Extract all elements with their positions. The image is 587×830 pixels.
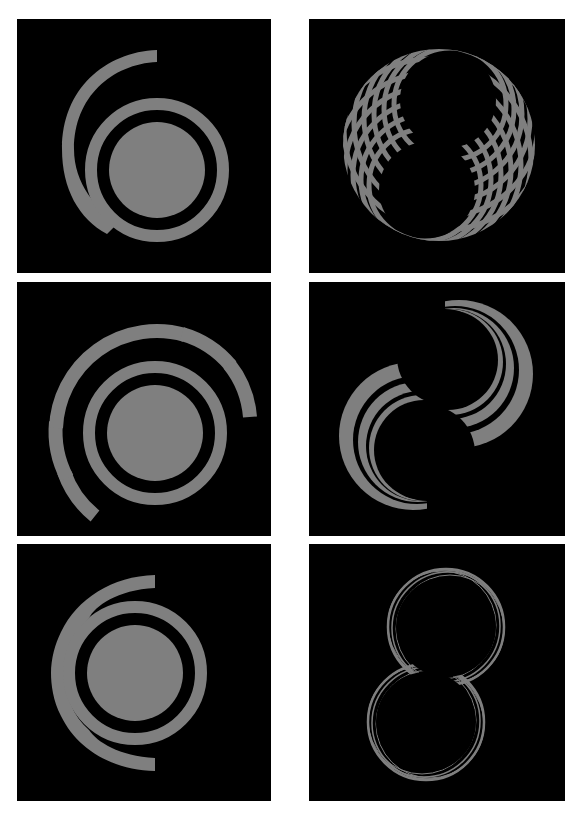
disc-shape xyxy=(109,122,205,218)
top-hole-shape xyxy=(397,309,493,405)
panel-disc-c-arc: disc with ring and C-shaped outer arc xyxy=(17,544,271,801)
bottom-hole-shape xyxy=(379,405,475,501)
panel-disc-spiral: disc with ring and outer spiral tail (6-… xyxy=(17,19,271,273)
top-hole-shape xyxy=(400,52,496,148)
crescent-eight-graphic xyxy=(309,282,565,536)
panel-striped-eight: striped sphere with two black circles (f… xyxy=(309,19,565,273)
bottom-hole-shape xyxy=(379,142,475,238)
top-hole-shape xyxy=(396,577,496,677)
disc-stepped-arc-graphic xyxy=(17,282,271,536)
disc-spiral-graphic xyxy=(17,19,271,273)
disc-c-arc-graphic xyxy=(17,544,271,801)
striped-eight-graphic xyxy=(309,19,565,273)
disc-shape xyxy=(87,625,183,721)
disc-shape xyxy=(107,385,203,481)
panel-outlined-eight: outlined figure-eight with thin crescent… xyxy=(309,544,565,801)
bottom-hole-shape xyxy=(376,672,476,772)
panel-disc-stepped-arc: disc with ring and stepped outer arc xyxy=(17,282,271,536)
panel-crescent-eight: figure-eight with crescent stripes on op… xyxy=(309,282,565,536)
outlined-eight-graphic xyxy=(309,544,565,801)
